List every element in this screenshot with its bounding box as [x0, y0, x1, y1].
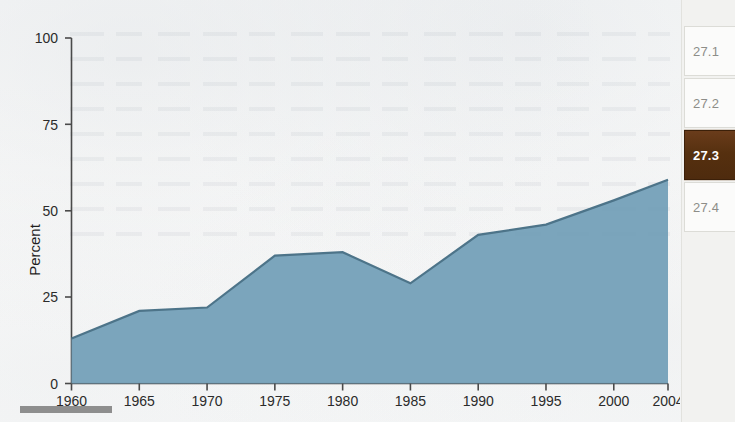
- tab-27-3[interactable]: 27.3: [684, 130, 735, 180]
- x-tick-label-1970: 1970: [191, 393, 222, 409]
- y-axis-title: Percent: [26, 223, 43, 276]
- y-tick-label-50: 50: [42, 203, 58, 219]
- x-tick-label-1975: 1975: [259, 393, 290, 409]
- x-tick-label-1965: 1965: [124, 393, 155, 409]
- x-tick-label-1990: 1990: [463, 393, 494, 409]
- tab-27-4-label: 27.4: [693, 200, 719, 215]
- y-tick-label-75: 75: [42, 117, 58, 133]
- tab-27-2-label: 27.2: [693, 96, 719, 111]
- tab-27-1[interactable]: 27.1: [684, 26, 735, 76]
- x-tick-label-2000: 2000: [598, 393, 629, 409]
- section-tab-strip: 27.1 27.2 27.3 27.4: [681, 0, 735, 422]
- y-axis-ticks: 100 75 50 25 0: [35, 30, 72, 392]
- page-root: Percent 100 75 50 25 0 19601965197: [0, 0, 735, 422]
- area-chart-figure: Percent 100 75 50 25 0 19601965197: [0, 0, 680, 422]
- x-tick-label-2004: 2004: [652, 393, 680, 409]
- y-tick-label-100: 100: [35, 30, 59, 46]
- y-tick-label-0: 0: [50, 376, 58, 392]
- chart-canvas: Percent 100 75 50 25 0 19601965197: [0, 0, 680, 422]
- tab-27-4[interactable]: 27.4: [684, 182, 735, 232]
- tab-27-1-label: 27.1: [693, 44, 719, 59]
- tab-27-3-label: 27.3: [693, 148, 719, 163]
- tab-27-2[interactable]: 27.2: [684, 78, 735, 128]
- x-tick-label-1985: 1985: [395, 393, 426, 409]
- series-area-fill: [72, 180, 669, 384]
- x-tick-label-1980: 1980: [327, 393, 358, 409]
- x-tick-label-1995: 1995: [530, 393, 561, 409]
- bottom-rule: [20, 406, 112, 413]
- x-axis-ticks: 1960196519701975198019851990199520002004: [56, 384, 680, 409]
- y-tick-label-25: 25: [42, 289, 58, 305]
